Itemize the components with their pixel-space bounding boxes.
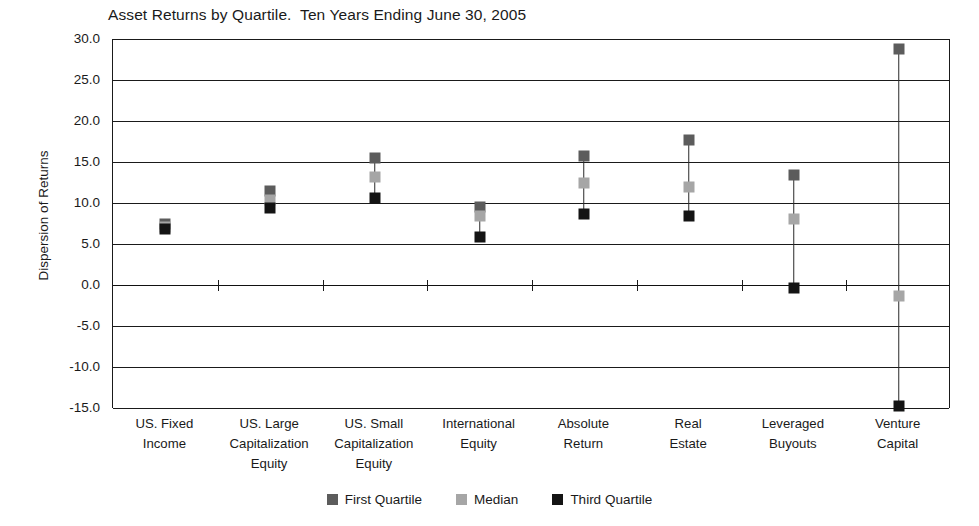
marker-q3	[265, 202, 276, 213]
y-tick-label: -5.0	[26, 319, 100, 333]
plot-area	[112, 39, 950, 408]
x-axis-tick	[846, 280, 847, 291]
gridline-0.0	[113, 285, 949, 286]
marker-q1	[893, 43, 904, 54]
y-tick-label: 15.0	[26, 155, 100, 169]
x-category-label: Venture Capital	[845, 414, 950, 454]
gridline-25.0	[113, 80, 949, 81]
marker-q3	[369, 193, 380, 204]
y-tick-label: -15.0	[26, 401, 100, 415]
marker-q3	[579, 209, 590, 220]
quartile-range-line	[793, 175, 794, 288]
gridline-5.0	[113, 244, 949, 245]
y-tick-label: 25.0	[26, 73, 100, 87]
x-category-label: International Equity	[426, 414, 531, 454]
gridline-10.0	[113, 203, 949, 204]
y-tick-label: 0.0	[26, 278, 100, 292]
gridline--10.0	[113, 367, 949, 368]
x-category-label: Leveraged Buyouts	[741, 414, 846, 454]
legend-label: First Quartile	[345, 492, 422, 507]
marker-med	[369, 171, 380, 182]
legend-swatch-icon	[456, 494, 467, 505]
x-category-label: Real Estate	[636, 414, 741, 454]
y-axis-title: Dispersion of Returns	[36, 36, 51, 396]
gridline-20.0	[113, 121, 949, 122]
marker-q3	[788, 283, 799, 294]
marker-med	[684, 181, 695, 192]
marker-q1	[579, 151, 590, 162]
x-axis-tick	[218, 280, 219, 291]
x-axis-tick	[427, 280, 428, 291]
legend-swatch-icon	[552, 494, 563, 505]
x-axis-tick	[532, 280, 533, 291]
marker-q1	[788, 170, 799, 181]
chart-title: Asset Returns by Quartile. Ten Years End…	[108, 6, 526, 24]
x-category-label: US. Small Capitalization Equity	[322, 414, 427, 474]
gridline--15.0	[113, 408, 949, 409]
y-tick-label: 5.0	[26, 237, 100, 251]
legend-label: Median	[474, 492, 518, 507]
legend-item[interactable]: Median	[456, 492, 518, 507]
marker-q1	[684, 134, 695, 145]
x-category-label: US. Large Capitalization Equity	[217, 414, 322, 474]
marker-q3	[684, 211, 695, 222]
chart-container: Asset Returns by Quartile. Ten Years End…	[0, 0, 979, 526]
chart-legend: First QuartileMedianThird Quartile	[0, 492, 979, 507]
marker-med	[893, 291, 904, 302]
x-category-label: Absolute Return	[531, 414, 636, 454]
x-axis-tick	[742, 280, 743, 291]
quartile-range-line	[688, 140, 689, 216]
x-axis-tick	[323, 280, 324, 291]
marker-med	[474, 211, 485, 222]
legend-item[interactable]: Third Quartile	[552, 492, 652, 507]
legend-swatch-icon	[327, 494, 338, 505]
legend-label: Third Quartile	[570, 492, 652, 507]
gridline-30.0	[113, 39, 949, 40]
y-tick-label: -10.0	[26, 360, 100, 374]
marker-q3	[893, 401, 904, 412]
marker-q3	[474, 231, 485, 242]
gridline-15.0	[113, 162, 949, 163]
x-category-label: US. Fixed Income	[112, 414, 217, 454]
gridline--5.0	[113, 326, 949, 327]
x-axis-tick	[637, 280, 638, 291]
y-tick-label: 30.0	[26, 32, 100, 46]
y-tick-label: 10.0	[26, 196, 100, 210]
marker-med	[788, 214, 799, 225]
marker-med	[579, 177, 590, 188]
marker-q3	[160, 224, 171, 235]
y-tick-label: 20.0	[26, 114, 100, 128]
quartile-range-line	[898, 49, 899, 407]
legend-item[interactable]: First Quartile	[327, 492, 422, 507]
marker-q1	[369, 152, 380, 163]
